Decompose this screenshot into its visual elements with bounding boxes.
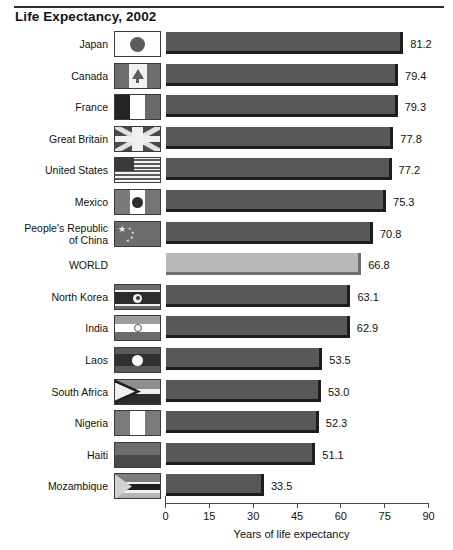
category-label: Nigeria	[0, 407, 108, 439]
flag-icon-haiti	[114, 442, 161, 468]
x-tick	[253, 503, 254, 508]
category-label: WORLD	[0, 249, 108, 281]
x-tick	[428, 503, 429, 508]
x-tick	[209, 503, 210, 508]
x-tick	[297, 503, 298, 508]
chart-row: Laos53.5	[0, 344, 453, 376]
chart-row: Nigeria52.3	[0, 407, 453, 439]
x-axis-title: Years of life expectancy	[0, 528, 453, 540]
flag-icon-south-africa	[114, 379, 161, 405]
bar-value-label: 79.3	[405, 91, 426, 123]
chart-plot-area: Japan81.2Canada79.4France79.3Great Brita…	[0, 28, 453, 503]
category-label: France	[0, 91, 108, 123]
x-tick-label: 0	[162, 510, 168, 522]
flag-icon-china: ★★★★★	[114, 221, 161, 247]
flag-icon-france	[114, 94, 161, 120]
chart-row: North Korea63.1	[0, 281, 453, 313]
bar-value-label: 62.9	[357, 312, 378, 344]
x-tick-label: 45	[291, 510, 303, 522]
chart-title: Life Expectancy, 2002	[15, 9, 156, 24]
chart-row: United States77.2	[0, 154, 453, 186]
bar	[166, 443, 315, 465]
title-rule	[14, 6, 444, 8]
flag-icon-north-korea	[114, 284, 161, 310]
bar	[166, 190, 386, 212]
flag-icon-india	[114, 315, 161, 341]
category-label: Mozambique	[0, 470, 108, 502]
bar-value-label: 33.5	[271, 470, 292, 502]
category-label: Canada	[0, 60, 108, 92]
category-label: Laos	[0, 344, 108, 376]
x-tick-label: 60	[335, 510, 347, 522]
x-tick-label: 90	[422, 510, 434, 522]
category-label: Japan	[0, 28, 108, 60]
x-tick	[340, 503, 341, 508]
category-label: People's Republic of China	[0, 218, 108, 250]
flag-icon-canada	[114, 63, 161, 89]
category-label: United States	[0, 154, 108, 186]
chart-row: France79.3	[0, 91, 453, 123]
bar-value-label: 53.5	[329, 344, 350, 376]
bar	[166, 316, 350, 338]
flag-icon-mexico	[114, 189, 161, 215]
bar	[166, 348, 322, 370]
bar-value-label: 81.2	[410, 28, 431, 60]
flag-icon-japan	[114, 31, 161, 57]
bar	[166, 158, 392, 180]
bar-value-label: 70.8	[380, 218, 401, 250]
chart-row: People's Republic of China★★★★★70.8	[0, 218, 453, 250]
bar-value-label: 53.0	[328, 376, 349, 408]
category-label: India	[0, 312, 108, 344]
x-tick-label: 15	[203, 510, 215, 522]
bar-value-label: 66.8	[368, 249, 389, 281]
chart-row: Japan81.2	[0, 28, 453, 60]
bar-value-label: 77.2	[399, 154, 420, 186]
category-label: North Korea	[0, 281, 108, 313]
category-label: South Africa	[0, 376, 108, 408]
chart-row: Great Britain77.8	[0, 123, 453, 155]
chart-row: South Africa53.0	[0, 376, 453, 408]
category-label: Haiti	[0, 439, 108, 471]
bar	[166, 474, 264, 496]
x-tick-label: 75	[379, 510, 391, 522]
bar-value-label: 51.1	[322, 439, 343, 471]
flag-icon-united-states	[114, 157, 161, 183]
bar-value-label: 52.3	[326, 407, 347, 439]
flag-icon-great-britain	[114, 126, 161, 152]
chart-row: Haiti51.1	[0, 439, 453, 471]
bar	[166, 285, 350, 307]
x-tick	[384, 503, 385, 508]
x-tick-label: 30	[247, 510, 259, 522]
x-tick	[165, 503, 166, 508]
bar	[166, 32, 403, 54]
bar	[166, 95, 398, 117]
flag-icon-mozambique	[114, 473, 161, 499]
chart-row: WORLD66.8	[0, 249, 453, 281]
bar-value-label: 75.3	[393, 186, 414, 218]
bar-value-label: 79.4	[405, 60, 426, 92]
bar	[166, 222, 373, 244]
bar	[166, 411, 319, 433]
chart-row: Mexico75.3	[0, 186, 453, 218]
bar	[166, 64, 398, 86]
bar-value-label: 63.1	[357, 281, 378, 313]
category-label: Mexico	[0, 186, 108, 218]
flag-icon-laos	[114, 347, 161, 373]
bar	[166, 380, 321, 402]
chart-row: Canada79.4	[0, 60, 453, 92]
chart-row: India62.9	[0, 312, 453, 344]
flag-icon-nigeria	[114, 410, 161, 436]
bar	[166, 127, 393, 149]
category-label: Great Britain	[0, 123, 108, 155]
bar	[166, 253, 361, 275]
chart-row: Mozambique33.5	[0, 470, 453, 502]
bar-value-label: 77.8	[400, 123, 421, 155]
